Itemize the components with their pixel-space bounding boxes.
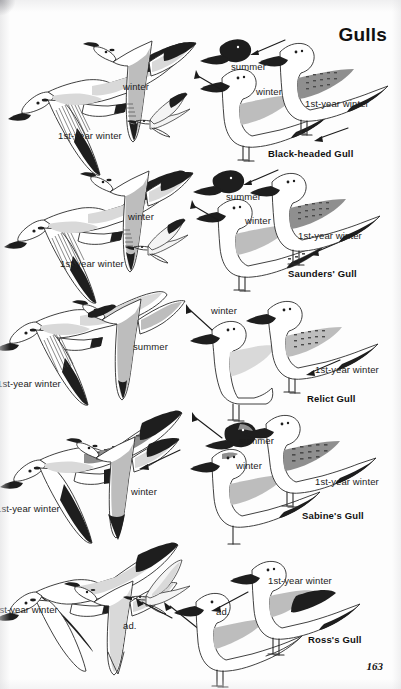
label-1st-year-winter-row1-perched: 1st-year winter [305,99,369,109]
label-summer-row3-flight: summer [133,342,168,352]
label-1st-year-winter-row5-flight: 1st-year winter [0,605,58,615]
label-1st-year-winter-row2-perched: 1st-year winter [298,231,362,241]
label-ad-row5-flight: ad. [123,621,137,631]
label-winter-row1-perched: winter [256,87,282,97]
species-name-rosss-gull: Ross's Gull [308,634,362,645]
label-1st-year-winter-row2-flight: 1st-year winter [60,259,124,269]
label-winter-row4-perched: winter [236,461,262,471]
label-1st-year-winter-row3-flight: 1st-year winter [0,379,61,389]
label-winter-row3-perched: winter [211,306,237,316]
label-summer-row1-perched: summer [231,62,266,72]
label-winter-row1-flight: winter [123,82,149,92]
species-name-saunders-gull: Saunders' Gull [288,268,357,279]
perched-figure-1st-year-winter-sabines [244,415,376,507]
flight-figure-summer-relict-underwing [72,299,185,400]
species-name-black-headed-gull: Black-headed Gull [268,148,353,159]
label-winter-row4-flight: winter [131,487,157,497]
label-1st-year-winter-row4-perched: 1st-year winter [315,477,379,487]
page-title: Gulls [338,24,387,46]
label-summer-row4-perched: summer [239,436,274,446]
label-ad-row5-perched: ad. [216,607,230,617]
label-1st-year-winter-row3-perched: 1st-year winter [315,365,379,375]
field-guide-page: Gulls winter 1st-year winter summer wint… [0,0,401,689]
label-summer-row2-perched: summer [226,192,261,202]
label-1st-year-winter-row1-flight: 1st-year winter [58,131,122,141]
label-1st-year-winter-row5-perched: 1st-year winter [268,576,332,586]
label-1st-year-winter-row4-flight: 1st-year winter [0,504,60,514]
label-winter-row2-flight: winter [128,212,154,222]
species-name-sabines-gull: Sabine's Gull [302,510,364,521]
flight-figure-1st-year-winter-sabines [0,411,182,544]
label-winter-row2-perched: winter [245,216,271,226]
page-number: 163 [367,660,384,672]
species-name-relict-gull: Relict Gull [307,393,356,404]
